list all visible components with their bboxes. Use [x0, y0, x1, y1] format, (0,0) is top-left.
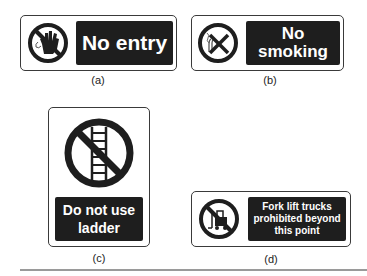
- caption-a: (a): [78, 74, 118, 86]
- sign-text-line3: this point: [275, 225, 320, 237]
- sign-text-line2: ladder: [78, 219, 120, 237]
- sign-text-line1: No: [282, 25, 305, 43]
- sign-text: No entry: [82, 31, 167, 55]
- sign-no-ladder: Do not use ladder: [48, 107, 150, 247]
- no-forklift-icon: [198, 198, 240, 240]
- no-entry-hand-icon: [27, 22, 69, 64]
- sign-no-entry: No entry: [20, 15, 177, 71]
- sign-text-panel: Do not use ladder: [55, 197, 143, 241]
- no-ladder-icon: [63, 117, 135, 189]
- caption-b: (b): [250, 74, 290, 86]
- sign-text-line2: prohibited beyond: [253, 213, 340, 225]
- bottom-divider: [20, 269, 367, 271]
- sign-text-panel: No entry: [76, 21, 173, 65]
- no-smoking-icon: [197, 22, 239, 64]
- sign-text-panel: Fork lift trucks prohibited beyond this …: [248, 197, 346, 241]
- caption-c: (c): [79, 252, 119, 264]
- sign-text-panel: No smoking: [246, 21, 340, 65]
- caption-d: (d): [251, 253, 291, 265]
- sign-text-line2: smoking: [258, 43, 328, 61]
- sign-text-line1: Do not use: [63, 201, 135, 219]
- sign-no-smoking: No smoking: [191, 15, 344, 71]
- sign-no-forklift: Fork lift trucks prohibited beyond this …: [191, 191, 351, 247]
- sign-text-line1: Fork lift trucks: [262, 201, 331, 213]
